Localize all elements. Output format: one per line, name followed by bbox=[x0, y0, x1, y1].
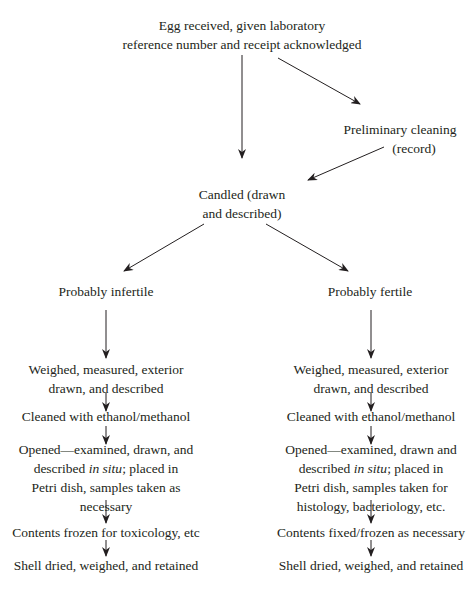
right-contents: Contents fixed/frozen as necessary bbox=[271, 523, 471, 542]
left-opened-line1: Opened—examined, drawn, and bbox=[6, 440, 206, 459]
right-opened-line4: histology, bacteriology, etc. bbox=[271, 497, 471, 516]
node-cleaning-line1: Preliminary cleaning bbox=[320, 120, 473, 139]
left-weighed-line1: Weighed, measured, exterior bbox=[6, 360, 206, 379]
node-probably-infertile: Probably infertile bbox=[26, 282, 186, 301]
left-shell: Shell dried, weighed, and retained bbox=[6, 556, 206, 575]
left-opened-line4: necessary bbox=[6, 497, 206, 516]
node-cleaning-line2: (record) bbox=[320, 139, 473, 158]
node-preliminary-cleaning: Preliminary cleaning (record) bbox=[320, 120, 473, 158]
arrow-candled-to-fertile bbox=[266, 224, 348, 271]
node-egg-received: Egg received, given laboratory reference… bbox=[92, 16, 392, 54]
left-weighed-line2: drawn, and described bbox=[6, 379, 206, 398]
node-egg-received-line1: Egg received, given laboratory bbox=[92, 16, 392, 35]
node-candled-line1: Candled (drawn bbox=[172, 185, 312, 204]
right-opened: Opened—examined, drawn and described in … bbox=[271, 440, 471, 516]
right-opened-line2: described in situ; placed in bbox=[271, 459, 471, 478]
right-cleaned: Cleaned with ethanol/methanol bbox=[271, 407, 471, 426]
right-opened-line1: Opened—examined, drawn and bbox=[271, 440, 471, 459]
right-opened-line3: Petri dish, samples taken for bbox=[271, 478, 471, 497]
arrow-received-to-cleaning bbox=[278, 58, 360, 104]
right-weighed: Weighed, measured, exterior drawn, and d… bbox=[271, 360, 471, 398]
left-contents: Contents frozen for toxicology, etc bbox=[6, 523, 206, 542]
in-situ-italic: in situ bbox=[354, 461, 387, 476]
node-probably-fertile: Probably fertile bbox=[290, 282, 450, 301]
left-cleaned: Cleaned with ethanol/methanol bbox=[6, 407, 206, 426]
left-opened-line3: Petri dish, samples taken as bbox=[6, 478, 206, 497]
left-opened-line2: described in situ; placed in bbox=[6, 459, 206, 478]
node-candled: Candled (drawn and described) bbox=[172, 185, 312, 223]
right-weighed-line2: drawn, and described bbox=[271, 379, 471, 398]
in-situ-italic: in situ bbox=[89, 461, 122, 476]
node-egg-received-line2: reference number and receipt acknowledge… bbox=[92, 35, 392, 54]
right-shell: Shell dried, weighed, and retained bbox=[271, 556, 471, 575]
node-candled-line2: and described) bbox=[172, 204, 312, 223]
left-opened: Opened—examined, drawn, and described in… bbox=[6, 440, 206, 516]
left-weighed: Weighed, measured, exterior drawn, and d… bbox=[6, 360, 206, 398]
arrow-candled-to-infertile bbox=[124, 224, 204, 271]
right-weighed-line1: Weighed, measured, exterior bbox=[271, 360, 471, 379]
